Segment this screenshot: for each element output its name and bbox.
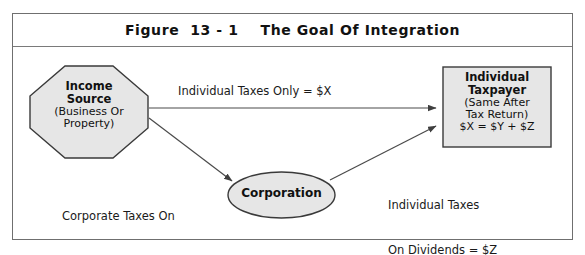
figure-container: Figure 13 - 1 The Goal Of Integration In… [0, 0, 585, 255]
edge-source-to-corporation [149, 118, 232, 181]
individual-taxpayer-box [443, 67, 551, 147]
income-source-octagon [30, 66, 148, 158]
diagram-canvas [0, 0, 585, 255]
corporation-ellipse [228, 172, 335, 218]
edge-corporation-to-taxpayer [330, 126, 436, 180]
